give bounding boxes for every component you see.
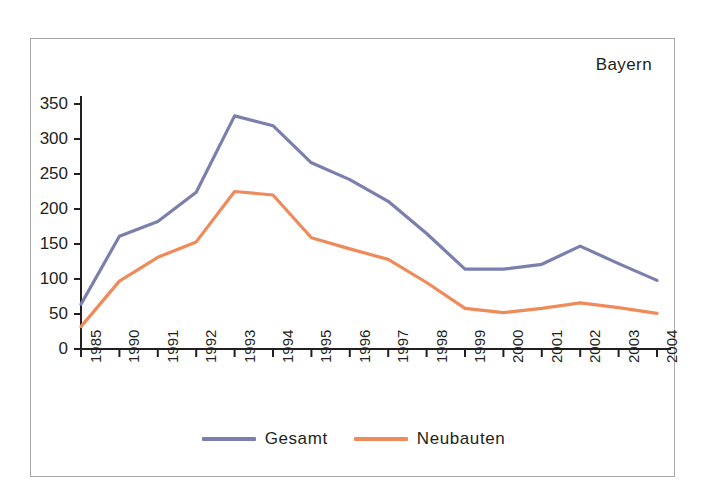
chart-page: Bayern 050100150200250300350198519901991… xyxy=(0,0,704,500)
y-axis-tick-label-0: 0 xyxy=(31,339,68,359)
chart-legend: GesamtNeubauten xyxy=(31,429,676,449)
x-axis-tick-label-1996: 1996 xyxy=(356,330,373,363)
x-axis-tick-label-2004: 2004 xyxy=(663,330,680,363)
chart-frame: Bayern 050100150200250300350198519901991… xyxy=(30,38,675,477)
y-axis-tick-label-200: 200 xyxy=(31,199,68,219)
x-axis-tick-label-2002: 2002 xyxy=(586,330,603,363)
y-axis-tick-label-250: 250 xyxy=(31,164,68,184)
x-axis-tick-label-1993: 1993 xyxy=(241,330,258,363)
x-axis-tick-label-1992: 1992 xyxy=(202,330,219,363)
x-axis-tick-label-1998: 1998 xyxy=(433,330,450,363)
y-axis-tick-label-350: 350 xyxy=(31,94,68,114)
legend-entry-gesamt[interactable]: Gesamt xyxy=(202,429,328,449)
x-axis-tick-label-1991: 1991 xyxy=(164,330,181,363)
legend-swatch-neubauten-icon xyxy=(354,437,408,441)
series-line-neubauten xyxy=(81,192,657,327)
y-axis-tick-label-150: 150 xyxy=(31,234,68,254)
x-axis-tick-label-2000: 2000 xyxy=(509,330,526,363)
legend-swatch-gesamt-icon xyxy=(202,437,256,441)
x-axis-tick-label-2001: 2001 xyxy=(548,330,565,363)
legend-label-gesamt: Gesamt xyxy=(265,429,328,449)
y-axis-tick-label-100: 100 xyxy=(31,269,68,289)
legend-label-neubauten: Neubauten xyxy=(417,429,506,449)
x-axis-tick-label-1994: 1994 xyxy=(279,330,296,363)
y-axis-tick-label-50: 50 xyxy=(31,304,68,324)
x-axis-tick-label-1985: 1985 xyxy=(87,330,104,363)
x-axis-tick-label-1990: 1990 xyxy=(125,330,142,363)
series-line-gesamt xyxy=(81,116,657,304)
x-axis-tick-label-1997: 1997 xyxy=(394,330,411,363)
x-axis-tick-label-1995: 1995 xyxy=(317,330,334,363)
x-axis-tick-label-1999: 1999 xyxy=(471,330,488,363)
legend-entry-neubauten[interactable]: Neubauten xyxy=(354,429,506,449)
y-axis-tick-label-300: 300 xyxy=(31,129,68,149)
line-chart-svg xyxy=(31,39,676,478)
x-axis-tick-label-2003: 2003 xyxy=(625,330,642,363)
plot-area: 0501001502002503003501985199019911992199… xyxy=(31,39,676,478)
